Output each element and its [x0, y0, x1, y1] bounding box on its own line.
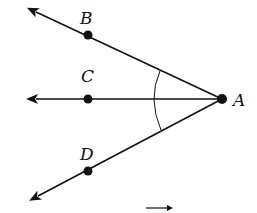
ray-notation-arrowhead	[167, 205, 173, 211]
point-b	[84, 31, 93, 40]
angle-arc	[154, 71, 161, 130]
label-c: C	[81, 66, 94, 86]
point-c	[84, 95, 93, 104]
ray-AD	[38, 99, 222, 196]
point-a	[217, 94, 227, 104]
ray-AB	[36, 12, 222, 99]
angle-diagram: BCDA	[0, 0, 257, 213]
label-d: D	[79, 144, 94, 164]
label-b: B	[79, 8, 93, 28]
label-a: A	[231, 90, 245, 110]
point-d	[84, 167, 93, 176]
